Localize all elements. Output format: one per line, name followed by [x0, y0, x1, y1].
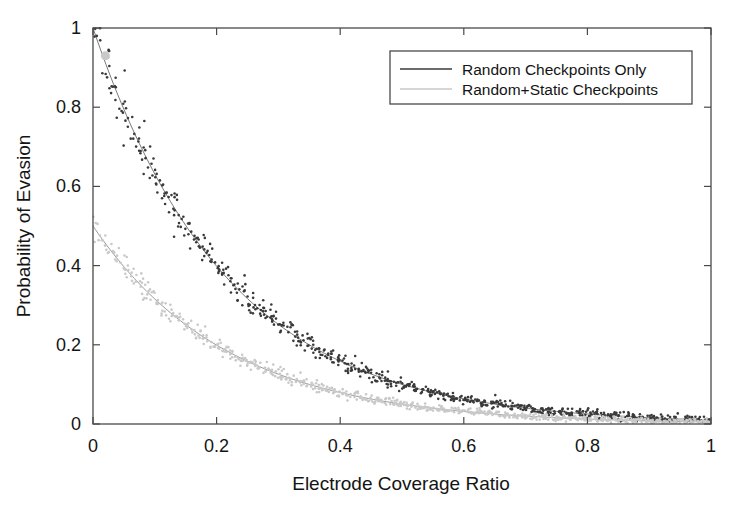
data-point: [523, 405, 526, 408]
data-point: [101, 239, 104, 242]
data-point: [183, 234, 186, 237]
data-point: [133, 133, 136, 136]
data-point: [361, 362, 364, 365]
data-point: [217, 265, 220, 268]
data-point: [249, 361, 252, 364]
data-point: [275, 317, 278, 320]
data-point: [337, 359, 340, 362]
data-point: [438, 404, 441, 407]
data-point: [218, 268, 221, 271]
data-point: [151, 174, 154, 177]
data-point: [694, 415, 697, 418]
data-point: [365, 393, 368, 396]
data-point: [221, 262, 224, 265]
data-point: [299, 344, 302, 347]
data-point: [218, 347, 221, 350]
data-point: [259, 361, 262, 364]
data-point: [190, 230, 193, 233]
data-point: [132, 282, 135, 285]
data-point: [260, 309, 263, 312]
data-point: [141, 293, 144, 296]
data-point: [202, 343, 205, 346]
y-tick-label: 0.6: [56, 176, 81, 196]
data-point: [271, 369, 274, 372]
data-point: [560, 418, 563, 421]
data-point: [295, 381, 298, 384]
data-point: [253, 359, 256, 362]
data-point: [450, 406, 453, 409]
data-point: [463, 409, 466, 412]
data-point: [108, 251, 111, 254]
data-point: [243, 274, 246, 277]
data-point: [321, 389, 324, 392]
data-point: [164, 302, 167, 305]
data-point: [396, 398, 399, 401]
data-point: [225, 267, 228, 270]
data-point: [414, 390, 417, 393]
data-point: [390, 383, 393, 386]
data-point: [292, 340, 295, 343]
data-point: [256, 307, 259, 310]
data-point: [421, 391, 424, 394]
data-point: [262, 310, 265, 313]
data-point: [524, 416, 527, 419]
data-point: [557, 416, 560, 419]
data-point: [470, 395, 473, 398]
data-point: [142, 277, 145, 280]
data-point: [234, 288, 237, 291]
data-point: [262, 299, 265, 302]
data-point: [698, 421, 701, 424]
data-point: [321, 354, 324, 357]
data-point: [312, 343, 315, 346]
data-point: [459, 396, 462, 399]
data-point: [402, 386, 405, 389]
y-tick-label: 0.8: [56, 97, 81, 117]
data-point: [176, 194, 179, 197]
data-point: [566, 417, 569, 420]
data-point: [521, 404, 524, 407]
data-point: [110, 92, 113, 95]
data-point: [258, 367, 261, 370]
data-point: [221, 273, 224, 276]
data-point: [169, 303, 172, 306]
data-point: [651, 419, 654, 422]
data-point: [297, 336, 300, 339]
data-point: [161, 301, 164, 304]
data-point: [266, 361, 269, 364]
data-point: [505, 413, 508, 416]
data-point: [306, 333, 309, 336]
data-point: [104, 234, 107, 237]
data-point: [139, 280, 142, 283]
data-point: [411, 404, 414, 407]
legend: Random Checkpoints Only Random+Static Ch…: [390, 51, 692, 104]
data-point: [408, 383, 411, 386]
data-point: [488, 410, 491, 413]
data-point: [503, 415, 506, 418]
data-point: [280, 330, 283, 333]
data-point: [289, 326, 292, 329]
data-point: [453, 411, 456, 414]
data-point: [492, 406, 495, 409]
data-point: [661, 415, 664, 418]
data-point: [699, 416, 702, 419]
data-point: [622, 411, 625, 414]
data-point: [118, 107, 121, 110]
data-point: [327, 354, 330, 357]
data-point: [521, 414, 524, 417]
data-point: [130, 275, 133, 278]
data-point: [354, 368, 357, 371]
data-point: [221, 356, 224, 359]
data-point: [360, 370, 363, 373]
data-point: [248, 304, 251, 307]
data-point: [425, 406, 428, 409]
data-point: [400, 376, 403, 379]
data-point: [236, 299, 239, 302]
data-point: [376, 397, 379, 400]
data-point: [264, 367, 267, 370]
data-point: [501, 404, 504, 407]
data-point: [669, 416, 672, 419]
x-axis-label: Electrode Coverage Ratio: [292, 473, 510, 494]
data-point: [659, 417, 662, 420]
data-point: [516, 417, 519, 420]
data-point: [143, 297, 146, 300]
